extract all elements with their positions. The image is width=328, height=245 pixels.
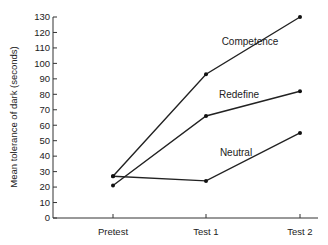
y-axis-title: Mean tolerance of dark (seconds) xyxy=(8,46,19,188)
y-tick-label: 40 xyxy=(39,150,50,161)
y-tick-label: 120 xyxy=(34,27,50,38)
data-point-redefine xyxy=(204,114,208,118)
data-point-redefine xyxy=(111,184,115,188)
data-point-redefine xyxy=(298,89,302,93)
y-tick-label: 60 xyxy=(39,120,50,131)
y-tick-label: 50 xyxy=(39,135,50,146)
series-label-redefine: Redefine xyxy=(219,89,259,100)
y-ticks: 0102030405060708090100110120130 xyxy=(34,11,57,223)
y-tick-label: 130 xyxy=(34,11,50,22)
data-point-competence xyxy=(298,15,302,19)
y-tick-label: 10 xyxy=(39,197,50,208)
y-tick-label: 80 xyxy=(39,89,50,100)
line-chart: 0102030405060708090100110120130 PretestT… xyxy=(0,0,328,245)
data-point-neutral xyxy=(204,179,208,183)
axes xyxy=(53,17,318,218)
data-point-neutral xyxy=(111,174,115,178)
series-labels: CompetenceRedefineNeutral xyxy=(219,36,279,158)
y-tick-label: 70 xyxy=(39,104,50,115)
series-line-neutral xyxy=(113,133,300,181)
x-tick-label: Test 1 xyxy=(193,226,218,237)
series-line-redefine xyxy=(113,91,300,185)
y-tick-label: 100 xyxy=(34,58,50,69)
y-tick-label: 20 xyxy=(39,181,50,192)
x-tick-label: Test 2 xyxy=(287,226,312,237)
y-tick-label: 30 xyxy=(39,166,50,177)
data-point-competence xyxy=(204,72,208,76)
y-tick-label: 0 xyxy=(45,212,50,223)
y-tick-label: 110 xyxy=(35,42,50,53)
y-tick-label: 90 xyxy=(39,73,50,84)
data-point-neutral xyxy=(298,131,302,135)
series-label-competence: Competence xyxy=(222,36,279,47)
series-label-neutral: Neutral xyxy=(220,147,252,158)
x-ticks: PretestTest 1Test 2 xyxy=(98,214,313,237)
x-tick-label: Pretest xyxy=(98,226,128,237)
